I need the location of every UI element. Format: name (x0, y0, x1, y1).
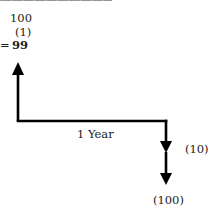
outflow-label-2: (100) (153, 195, 184, 207)
outflow-label-1: (10) (185, 144, 209, 156)
cash-flow-diagram: ———————————————————— 100 (1) = 99 1 Year… (0, 0, 213, 213)
timeline-graphic (0, 0, 213, 213)
outflow-arrow-icon-1 (160, 120, 172, 153)
period-label: 1 Year (77, 129, 114, 141)
outflow-arrow-icon-2 (160, 152, 172, 185)
inflow-arrow-icon (12, 62, 24, 121)
